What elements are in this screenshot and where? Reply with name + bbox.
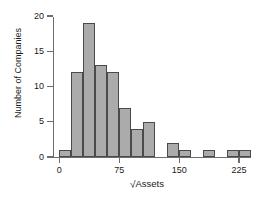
x-axis-tick [119,157,120,163]
y-axis-tick-label: 20 [20,12,44,21]
histogram-bar [227,150,239,157]
x-axis-title: √Assets [52,178,242,190]
y-axis-tick-label: 0 [20,153,44,162]
x-axis-tick-label: 75 [104,166,134,175]
histogram-bar [167,143,179,157]
histogram-bar [95,65,107,157]
histogram-bar [239,150,251,157]
histogram-bar [131,129,143,157]
y-axis-tick-label: 15 [20,47,44,56]
x-axis-tick-label: 0 [44,166,74,175]
x-axis-title-text: Assets [135,178,164,189]
x-axis-tick-label: 150 [164,166,194,175]
histogram-bar [59,150,71,157]
histogram-bar [143,122,155,157]
histogram-bar [203,150,215,157]
x-axis-tick [59,157,60,163]
histogram-bar [83,23,95,157]
y-axis-tick-label: 10 [20,82,44,91]
x-axis-tick [179,157,180,163]
histogram-figure: Number of Companies 05101520 075150225 √… [0,0,261,203]
histogram-bar [71,72,83,157]
histogram-bar [119,108,131,157]
y-axis-tick-label: 5 [20,117,44,126]
histogram-bar [107,72,119,157]
histogram-bar [179,150,191,157]
x-axis-tick-label: 225 [224,166,254,175]
x-axis-tick [238,157,239,163]
histogram-bars [53,16,251,157]
